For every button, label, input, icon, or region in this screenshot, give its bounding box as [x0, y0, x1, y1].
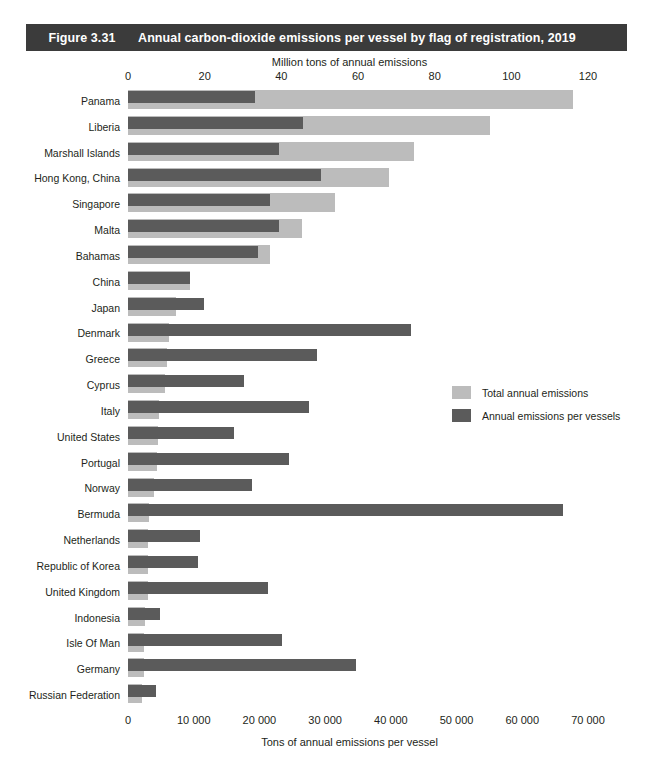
top-axis-ticks: 020406080100120	[0, 70, 653, 84]
category-label: Malta	[0, 224, 120, 236]
bar-annual-emissions-per-vessel	[128, 375, 244, 387]
bar-annual-emissions-per-vessel	[128, 143, 279, 155]
figure-title: Annual carbon-dioxide emissions per vess…	[138, 31, 576, 45]
category-label: Marshall Islands	[0, 147, 120, 159]
category-label: Germany	[0, 663, 120, 675]
category-label: Bermuda	[0, 508, 120, 520]
bar-annual-emissions-per-vessel	[128, 91, 255, 103]
bar-annual-emissions-per-vessel	[128, 349, 317, 361]
chart-legend: Total annual emissions Annual emissions …	[452, 383, 620, 429]
bar-annual-emissions-per-vessel	[128, 556, 198, 568]
legend-swatch-per-vessel-icon	[452, 409, 471, 422]
top-axis-tick: 40	[275, 70, 287, 82]
bar-row	[128, 607, 588, 629]
legend-item-per-vessel: Annual emissions per vessels	[452, 406, 620, 425]
top-axis-label: Million tons of annual emissions	[0, 56, 653, 68]
category-label: Portugal	[0, 457, 120, 469]
figure-number: Figure 3.31	[26, 31, 138, 45]
bar-annual-emissions-per-vessel	[128, 194, 270, 206]
category-label: United Kingdom	[0, 586, 120, 598]
bar-row	[128, 426, 588, 448]
category-label: Denmark	[0, 327, 120, 339]
bar-annual-emissions-per-vessel	[128, 117, 303, 129]
bar-annual-emissions-per-vessel	[128, 246, 258, 258]
category-label: Italy	[0, 405, 120, 417]
category-label: Isle Of Man	[0, 637, 120, 649]
legend-swatch-total-icon	[452, 386, 471, 399]
top-axis-tick: 80	[429, 70, 441, 82]
bar-annual-emissions-per-vessel	[128, 504, 563, 516]
legend-label-total: Total annual emissions	[482, 387, 588, 399]
category-label: Republic of Korea	[0, 560, 120, 572]
bar-annual-emissions-per-vessel	[128, 324, 411, 336]
bottom-axis-tick: 10 000	[177, 714, 211, 726]
bar-row	[128, 116, 588, 138]
category-label: Netherlands	[0, 534, 120, 546]
bar-row	[128, 348, 588, 370]
top-axis-tick: 100	[502, 70, 520, 82]
bar-row	[128, 168, 588, 190]
category-label: Bahamas	[0, 250, 120, 262]
bar-row	[128, 478, 588, 500]
category-label: United States	[0, 431, 120, 443]
top-axis-tick: 20	[199, 70, 211, 82]
top-axis-tick: 120	[579, 70, 597, 82]
category-label: Russian Federation	[0, 689, 120, 701]
bar-row	[128, 503, 588, 525]
bar-row	[128, 245, 588, 267]
category-label: Greece	[0, 353, 120, 365]
bar-row	[128, 581, 588, 603]
bar-annual-emissions-per-vessel	[128, 582, 268, 594]
bar-row	[128, 658, 588, 680]
bar-annual-emissions-per-vessel	[128, 685, 156, 697]
bar-annual-emissions-per-vessel	[128, 453, 289, 465]
category-label: China	[0, 276, 120, 288]
figure-title-banner: Figure 3.31 Annual carbon-dioxide emissi…	[26, 24, 627, 51]
top-axis-tick: 0	[125, 70, 131, 82]
bar-annual-emissions-per-vessel	[128, 659, 356, 671]
bar-row	[128, 297, 588, 319]
bar-row	[128, 219, 588, 241]
figure-root: Figure 3.31 Annual carbon-dioxide emissi…	[0, 0, 653, 760]
category-label: Hong Kong, China	[0, 172, 120, 184]
category-label: Panama	[0, 95, 120, 107]
bar-row	[128, 452, 588, 474]
bar-annual-emissions-per-vessel	[128, 169, 321, 181]
legend-item-total: Total annual emissions	[452, 383, 620, 402]
top-axis-tick: 60	[352, 70, 364, 82]
bottom-axis-label: Tons of annual emissions per vessel	[0, 736, 653, 748]
bar-row	[128, 323, 588, 345]
legend-label-per-vessel: Annual emissions per vessels	[482, 410, 620, 422]
bar-annual-emissions-per-vessel	[128, 272, 190, 284]
category-label: Japan	[0, 302, 120, 314]
bottom-axis-tick: 60 000	[505, 714, 539, 726]
bottom-axis-tick: 30 000	[308, 714, 342, 726]
bottom-axis-tick: 20 000	[243, 714, 277, 726]
bar-row	[128, 90, 588, 112]
bottom-axis-tick: 70 000	[571, 714, 605, 726]
category-label: Norway	[0, 482, 120, 494]
bar-annual-emissions-per-vessel	[128, 634, 282, 646]
bar-annual-emissions-per-vessel	[128, 530, 200, 542]
bar-annual-emissions-per-vessel	[128, 427, 234, 439]
category-label: Singapore	[0, 198, 120, 210]
bottom-axis-tick: 40 000	[374, 714, 408, 726]
bottom-axis-ticks: 010 00020 00030 00040 00050 00060 00070 …	[0, 714, 653, 728]
bar-annual-emissions-per-vessel	[128, 401, 309, 413]
bar-row	[128, 633, 588, 655]
bar-annual-emissions-per-vessel	[128, 608, 160, 620]
bar-row	[128, 684, 588, 706]
bottom-axis-tick: 50 000	[440, 714, 474, 726]
bar-row	[128, 193, 588, 215]
bar-row	[128, 529, 588, 551]
bar-row	[128, 142, 588, 164]
bar-annual-emissions-per-vessel	[128, 220, 279, 232]
bottom-axis-tick: 0	[125, 714, 131, 726]
bar-row	[128, 271, 588, 293]
category-label: Liberia	[0, 121, 120, 133]
category-axis-labels: PanamaLiberiaMarshall IslandsHong Kong, …	[0, 88, 120, 708]
bar-row	[128, 555, 588, 577]
bar-annual-emissions-per-vessel	[128, 479, 252, 491]
category-label: Cyprus	[0, 379, 120, 391]
category-label: Indonesia	[0, 612, 120, 624]
